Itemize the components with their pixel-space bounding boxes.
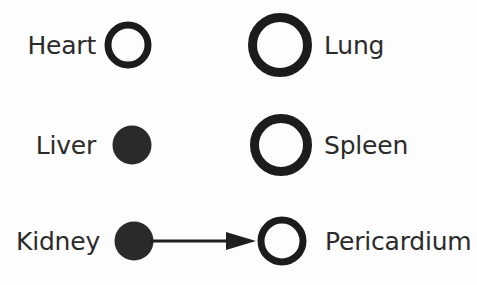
node-circle-lung[interactable] <box>248 13 312 77</box>
node-label-pericardium: Pericardium <box>325 229 472 254</box>
node-label-liver: Liver <box>36 133 96 158</box>
node-circle-pericardium[interactable] <box>258 217 307 266</box>
node-circle-kidney[interactable] <box>115 222 154 261</box>
node-label-heart: Heart <box>27 33 96 58</box>
arrow-connector-head <box>226 232 256 250</box>
node-circle-spleen[interactable] <box>250 114 312 176</box>
node-label-kidney: Kidney <box>16 229 100 254</box>
node-circle-liver[interactable] <box>113 126 152 165</box>
node-circle-heart[interactable] <box>105 22 152 69</box>
arrow-connector-line <box>150 240 228 243</box>
diagram-canvas: Heart Lung Liver Spleen Kidney Pericardi… <box>0 0 477 285</box>
node-label-spleen: Spleen <box>324 133 408 158</box>
node-label-lung: Lung <box>324 33 384 58</box>
